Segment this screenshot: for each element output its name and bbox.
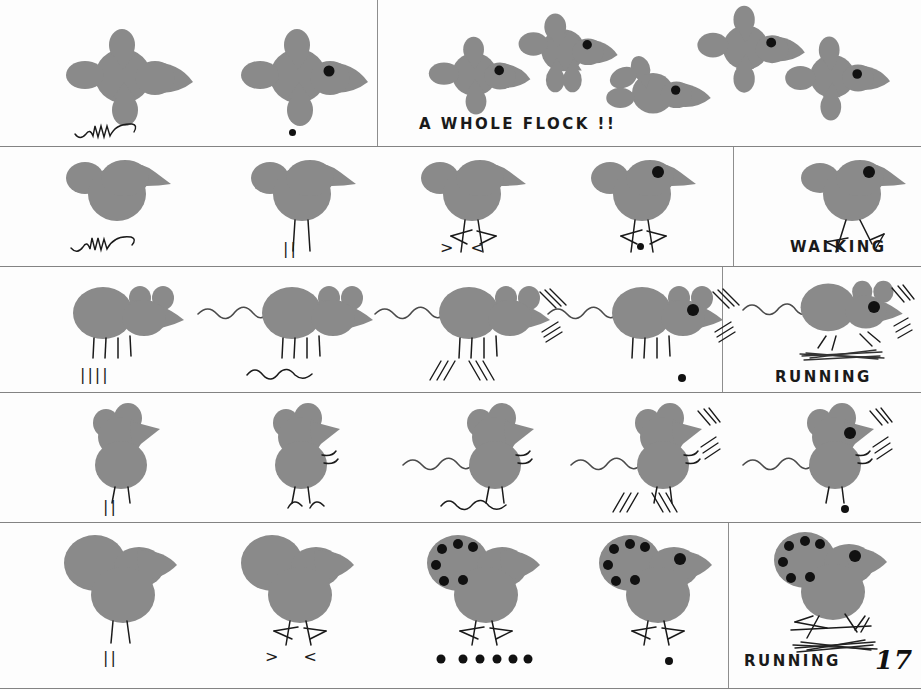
flying-bird-figure	[55, 18, 195, 128]
running-chick-figure	[765, 530, 915, 655]
running-mouse-panel	[740, 280, 920, 360]
annotation-dot-r3s4	[678, 374, 686, 382]
mouse-whiskers	[698, 408, 720, 459]
running-mouse-caption: RUNNING	[775, 368, 872, 386]
row-spotted-chick-step-4	[590, 533, 720, 648]
flock-caption: A WHOLE FLOCK !!	[419, 115, 616, 133]
spotted-chick-figure-eye	[590, 533, 720, 648]
annotation-dot-r5s4	[665, 657, 673, 665]
row-divider-3	[0, 392, 921, 393]
row-flying-bird-step-1	[55, 18, 195, 128]
panel-divider-row2	[733, 147, 734, 266]
mouse-tail	[198, 307, 267, 318]
row-divider-4	[0, 522, 921, 523]
annotation-dot-r2s4	[637, 243, 644, 250]
row-spotted-chick-step-2	[232, 533, 362, 648]
annotation-arms-r4s2	[284, 494, 336, 514]
running-chick-panel	[765, 530, 915, 655]
row-standing-bird-step-2	[240, 158, 360, 263]
row-running-mouse-step-2	[195, 280, 385, 360]
annotation-dot-r1s2	[289, 129, 296, 136]
spotted-chick-figure-feet	[232, 533, 362, 648]
side-mouse-figure	[68, 280, 198, 360]
row-running-mouse-step-3	[372, 280, 572, 365]
front-mouse-figure-arms	[268, 403, 378, 508]
annotation-whiskers-r3s3	[425, 358, 505, 384]
bird-eye	[324, 66, 335, 77]
chick-legs-with-feet	[274, 621, 326, 645]
annotation-feet-r5s2: > <	[265, 647, 327, 666]
front-mouse-figure-eye	[740, 403, 921, 508]
row-standing-bird-step-1	[55, 158, 175, 228]
annotation-squiggle-r1s1	[72, 120, 142, 145]
front-mouse-figure	[88, 403, 198, 508]
mouse-eye	[844, 427, 856, 439]
annotation-dots-r5s3	[436, 652, 540, 666]
annotation-tail-r3s2	[244, 363, 324, 383]
row-running-mouse-step-1	[68, 280, 198, 360]
row-standing-mouse-step-1	[88, 403, 198, 508]
chick-legs	[111, 621, 130, 643]
flock-panel	[400, 0, 920, 130]
motion-lines	[793, 640, 877, 652]
panel-divider-row1	[377, 0, 378, 146]
annotation-legs-r2s2: ||	[283, 239, 298, 258]
chick-eye	[674, 553, 686, 565]
running-mouse-figure	[740, 280, 920, 360]
row-standing-mouse-step-3	[400, 403, 590, 508]
row-flying-bird-step-2	[230, 18, 370, 128]
annotation-tail-r4s3	[438, 494, 518, 514]
standing-bird-figure-legs	[240, 158, 360, 263]
panel-divider-row5	[728, 523, 729, 688]
row-running-mouse-step-4	[545, 280, 745, 365]
mouse-tail	[403, 458, 472, 469]
drawing-book-page: A WHOLE FLOCK !! ||	[0, 0, 921, 690]
spotted-chick-figure-spots	[418, 533, 548, 648]
running-chick-caption: RUNNING	[744, 652, 841, 670]
annotation-legs-r5s1: ||	[103, 648, 118, 667]
front-mouse-figure-tail	[400, 403, 590, 508]
annotation-squiggle-r2s1	[68, 232, 140, 257]
annotation-legs-r3s1: ||||	[80, 365, 110, 384]
annotation-feet-r2s3: > <	[440, 238, 490, 257]
flying-bird-figure-with-eye	[230, 18, 370, 128]
side-mouse-figure-tail	[195, 280, 385, 360]
row-divider-1	[0, 146, 921, 147]
row-standing-mouse-step-5	[740, 403, 921, 508]
standing-bird-figure	[55, 158, 175, 228]
annotation-dot-r4s5	[841, 505, 849, 513]
annotation-whiskers-r4s4	[608, 490, 688, 516]
row-spotted-chick-step-3	[418, 533, 548, 648]
mouse-eye	[687, 304, 699, 316]
page-bottom-rule	[0, 688, 921, 689]
row-divider-2	[0, 266, 921, 267]
page-number: 17	[875, 645, 913, 675]
row-standing-mouse-step-2	[268, 403, 378, 508]
annotation-legs-r4s1: ||	[103, 497, 118, 516]
spotted-chick-figure	[55, 533, 185, 643]
walking-caption: WALKING	[790, 238, 887, 256]
side-mouse-figure-eye	[545, 280, 745, 365]
motion-lines	[800, 350, 884, 360]
mouse-legs	[93, 336, 131, 358]
running-mouse-legs	[818, 332, 880, 350]
flock-of-birds	[400, 0, 920, 130]
side-mouse-figure-whiskers	[372, 280, 572, 365]
row-spotted-chick-step-1	[55, 533, 185, 643]
bird-eye	[652, 166, 664, 178]
